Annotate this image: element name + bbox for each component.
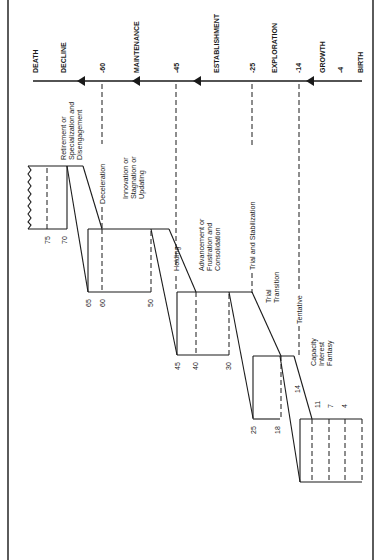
label-age-14: -14: [295, 63, 302, 73]
label-growth: GROWTH: [319, 41, 326, 73]
age-11: 11: [314, 401, 321, 408]
age-45: 45: [174, 362, 181, 370]
label-age-60: -60: [99, 63, 106, 73]
step-establishment: [177, 292, 281, 418]
age-14: 14: [294, 385, 301, 393]
age-75: 75: [44, 236, 51, 244]
label-trial-2: Transition: [272, 272, 281, 303]
label-tentative: Tentative: [295, 295, 304, 324]
arrow-icon-maintenance: [132, 76, 140, 86]
arrow-icon-establishment: [193, 76, 201, 86]
age-18: 18: [274, 426, 281, 434]
label-holding: Holding: [172, 247, 181, 271]
label-innovation-3: Updating: [137, 170, 146, 199]
age-40: 40: [192, 362, 199, 370]
label-exploration: EXPLORATION: [271, 23, 278, 73]
age-30: 30: [225, 362, 232, 370]
label-advancement-3: Consolidation: [213, 227, 222, 271]
age-25: 25: [250, 426, 257, 434]
age-50: 50: [147, 299, 154, 307]
label-establishment: ESTABLISHMENT: [213, 13, 220, 73]
label-age-45: -45: [173, 63, 180, 73]
stage-labels: DEATH DECLINE -60 MAINTENANCE -45 ESTABL…: [32, 13, 364, 73]
label-fantasy: Fantasy: [325, 340, 334, 366]
label-birth: BIRTH: [357, 52, 364, 73]
age-70: 70: [61, 236, 68, 244]
label-age-4: -4: [337, 67, 344, 73]
label-deceleration: Deceleration: [98, 164, 107, 204]
age-4: 4: [341, 404, 348, 408]
label-trial-stabilization: Trial and Stabilization: [248, 202, 257, 270]
age-7: 7: [327, 404, 334, 408]
life-axis: [33, 76, 362, 86]
age-65: 65: [85, 299, 92, 307]
label-death: DEATH: [32, 49, 39, 73]
arrow-icon-decline: [77, 76, 85, 86]
step-growth: [300, 419, 362, 482]
label-decline: DECLINE: [60, 42, 67, 73]
label-maintenance: MAINTENANCE: [133, 21, 140, 73]
age-60: 60: [99, 299, 106, 307]
label-retirement-3: Disengagement: [75, 110, 84, 160]
arrow-icon-growth: [306, 76, 314, 86]
career-stages-diagram: DEATH DECLINE -60 MAINTENANCE -45 ESTABL…: [0, 0, 379, 560]
label-age-25: -25: [249, 63, 256, 73]
